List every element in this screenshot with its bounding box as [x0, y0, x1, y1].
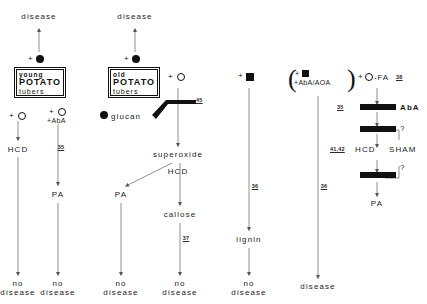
label-fa: -FA: [374, 73, 389, 82]
outcome-no-text-4: no: [174, 279, 185, 288]
filled-square-icon-lignin: [246, 73, 254, 81]
ref-36-abaaoa: 36: [321, 183, 328, 189]
ref-45: 45: [196, 97, 203, 103]
outcome-disease-text-4: disease: [162, 288, 197, 297]
block-bar-2: [360, 126, 396, 132]
block-bar-aba: [360, 104, 396, 110]
outcome-no-old-2: no disease: [162, 279, 197, 297]
plus-sign-fa: +: [358, 73, 363, 81]
outcome-no-old-1: no disease: [103, 279, 138, 297]
ref-38: 38: [396, 74, 403, 80]
label-aba-right: AbA: [400, 103, 420, 112]
node-hcd-old: HCD: [168, 167, 189, 176]
outcome-disease-abaaoa: disease: [300, 282, 335, 291]
node-lignin: lignin: [236, 235, 261, 244]
paren-close-icon: ): [347, 66, 356, 92]
node-callose: callose: [164, 210, 197, 219]
question-mark-lower: ?: [400, 164, 404, 172]
node-hcd-fa: HCD: [355, 145, 376, 154]
filled-square-icon-abaaoa: [302, 70, 309, 77]
ref-37: 37: [183, 235, 190, 241]
node-pa-fa: PA: [371, 199, 383, 208]
label-superoxide: superoxide: [153, 150, 203, 159]
ref-35-aba: 35: [337, 104, 344, 110]
plus-sign-superoxide: +: [168, 73, 173, 81]
ref-36-lignin: 36: [252, 183, 259, 189]
outcome-no-text-5: no: [243, 279, 254, 288]
outcome-no-text-3: no: [115, 279, 126, 288]
ref-41-42: 41,42: [330, 146, 345, 152]
outcome-disease-text-3: disease: [103, 288, 138, 297]
open-circle-icon-superoxide: [177, 73, 185, 81]
block-bar-3: [360, 172, 396, 178]
node-pa-old: PA: [115, 190, 127, 199]
label-aba-aoa: +AbA/AOA: [294, 78, 330, 87]
question-mark-upper: ?: [400, 125, 404, 133]
plus-sign-lignin: +: [238, 72, 243, 80]
label-sham: SHAM: [389, 145, 417, 154]
outcome-disease-text-5: disease: [231, 288, 266, 297]
pathway-diagram: disease + young POTATO tubers + + +AbA H…: [0, 0, 427, 304]
plus-sign-abaaoa: +: [295, 70, 299, 78]
outcome-no-lignin: no disease: [231, 279, 266, 297]
open-circle-icon-fa: [365, 73, 373, 81]
